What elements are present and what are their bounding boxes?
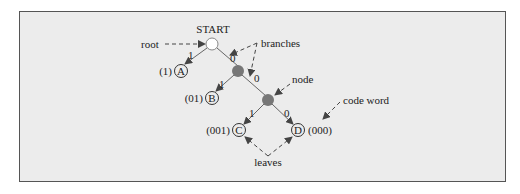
branch-label-node1-right: 0 xyxy=(254,72,260,84)
root-node xyxy=(206,38,218,50)
code-word-label: code word xyxy=(343,94,390,106)
leaf-C-code: (001) xyxy=(206,124,230,137)
tree-edges xyxy=(185,48,293,124)
branch-label-root-left: 1 xyxy=(188,49,194,61)
leaf-C-symbol: C xyxy=(235,124,242,136)
branch-label-node1-left: 1 xyxy=(219,78,225,90)
leaf-A-symbol: A xyxy=(177,65,185,77)
internal-node-2 xyxy=(262,94,274,106)
code-word-arrow xyxy=(323,102,340,119)
root-label: root xyxy=(141,38,159,50)
internal-node-1 xyxy=(232,65,244,77)
leaf-B-code: (01) xyxy=(185,92,204,105)
branch-label-node2-right: 0 xyxy=(284,107,290,119)
branch-label-root-right: 0 xyxy=(230,52,236,64)
leaves-label: leaves xyxy=(254,156,281,168)
leaves-arrow-C xyxy=(245,137,268,156)
leaf-D-symbol: D xyxy=(294,124,302,136)
branch-label-node2-left: 1 xyxy=(249,107,255,119)
leaves-arrow-D xyxy=(268,137,292,156)
code-tree-diagram: START root branches node code word leave… xyxy=(0,0,520,194)
leaf-B-symbol: B xyxy=(208,92,215,104)
edge-node2-D xyxy=(272,104,293,124)
leaf-D-code: (000) xyxy=(308,124,332,137)
leaf-A-code: (1) xyxy=(159,65,172,78)
node-arrow xyxy=(275,84,290,95)
node-label: node xyxy=(292,73,314,85)
branches-label: branches xyxy=(261,37,300,49)
start-label: START xyxy=(196,23,230,35)
